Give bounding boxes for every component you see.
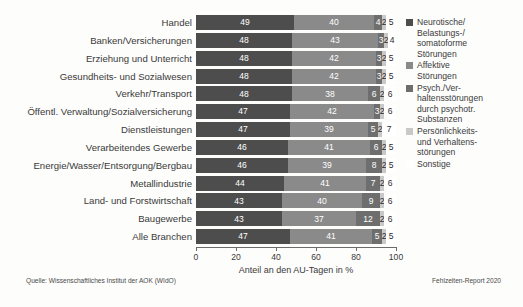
legend-item: Affektive Störungen bbox=[406, 60, 521, 81]
bar-segment: 48 bbox=[196, 33, 292, 48]
bar-segment: 46 bbox=[196, 158, 288, 173]
x-tick-label: 60 bbox=[311, 252, 321, 262]
bar-segment: 40 bbox=[282, 193, 362, 208]
bar-segment: 12 bbox=[356, 211, 380, 226]
bar-segment: 5 bbox=[386, 140, 396, 155]
bar-segment: 48 bbox=[196, 69, 292, 84]
bar-segment: 47 bbox=[196, 229, 290, 244]
legend-swatch-icon bbox=[406, 62, 413, 69]
bar-segment: 44 bbox=[196, 176, 284, 191]
bar-segment: 37 bbox=[282, 211, 356, 226]
x-tick-label: 100 bbox=[389, 252, 403, 262]
bar-segment: 6 bbox=[384, 211, 396, 226]
bar-segment: 5 bbox=[372, 229, 382, 244]
bar-segment: 4 bbox=[388, 33, 396, 48]
legend-swatch-icon bbox=[406, 161, 413, 168]
category-axis-labels: HandelBanken/VersicherungenErziehung und… bbox=[0, 15, 192, 247]
bar-row: 4742326 bbox=[196, 104, 396, 119]
bar-row: 4639825 bbox=[196, 158, 396, 173]
bar-segment: 41 bbox=[290, 229, 372, 244]
bar-segment: 42 bbox=[292, 51, 376, 66]
stacked-bar-plot-area: 4940425484332448423254842325483862647423… bbox=[196, 15, 396, 247]
legend-item: Persönlichkeits- und Verhaltens- störung… bbox=[406, 126, 521, 158]
bar-row: 4741525 bbox=[196, 229, 396, 244]
bar-segment: 6 bbox=[370, 140, 382, 155]
bar-row: 4838626 bbox=[196, 86, 396, 101]
legend-label: Neurotische/ Belastungs-/ somatoforme St… bbox=[417, 17, 467, 59]
category-label: Handel bbox=[2, 15, 192, 30]
x-axis-line bbox=[196, 247, 396, 248]
bar-segment: 46 bbox=[196, 140, 288, 155]
bar-segment: 7 bbox=[366, 176, 380, 191]
category-label: Metallindustrie bbox=[2, 176, 192, 191]
bar-segment: 5 bbox=[386, 69, 396, 84]
category-label: Energie/Wasser/Entsorgung/Bergbau bbox=[2, 158, 192, 173]
bar-segment: 8 bbox=[366, 158, 382, 173]
bar-segment: 40 bbox=[294, 15, 374, 30]
bar-segment: 6 bbox=[384, 104, 396, 119]
bar-segment: 43 bbox=[292, 33, 378, 48]
bar-segment: 6 bbox=[384, 176, 396, 191]
x-tick-label: 0 bbox=[194, 252, 199, 262]
bar-row: 43371226 bbox=[196, 211, 396, 226]
bar-row: 4842325 bbox=[196, 69, 396, 84]
x-tick-mark bbox=[276, 247, 277, 251]
bar-segment: 5 bbox=[386, 229, 396, 244]
category-label: Banken/Versicherungen bbox=[2, 33, 192, 48]
bar-segment: 5 bbox=[368, 122, 378, 137]
bar-segment: 43 bbox=[196, 211, 282, 226]
category-label: Dienstleistungen bbox=[2, 122, 192, 137]
legend-item: Neurotische/ Belastungs-/ somatoforme St… bbox=[406, 17, 521, 59]
bar-segment: 41 bbox=[284, 176, 366, 191]
x-tick-mark bbox=[316, 247, 317, 251]
legend-label: Sonstige bbox=[417, 159, 450, 170]
bar-segment: 47 bbox=[196, 104, 290, 119]
source-note: Quelle: Wissenschaftliches Institut der … bbox=[26, 277, 176, 284]
bar-segment: 47 bbox=[196, 122, 290, 137]
bar-segment: 5 bbox=[386, 158, 396, 173]
bar-row: 4441726 bbox=[196, 176, 396, 191]
bar-segment: 48 bbox=[196, 51, 292, 66]
bar-segment: 43 bbox=[196, 193, 282, 208]
bar-segment: 49 bbox=[196, 15, 294, 30]
legend-swatch-icon bbox=[406, 85, 413, 92]
bar-segment: 6 bbox=[368, 86, 380, 101]
bar-segment: 48 bbox=[196, 86, 292, 101]
category-label: Gesundheits- und Sozialwesen bbox=[2, 69, 192, 84]
bar-segment: 42 bbox=[290, 104, 374, 119]
bar-segment: 39 bbox=[290, 122, 368, 137]
x-tick-mark bbox=[236, 247, 237, 251]
legend-label: Persönlichkeits- und Verhaltens- störung… bbox=[417, 126, 478, 158]
bar-segment: 6 bbox=[384, 193, 396, 208]
chart-figure: HandelBanken/VersicherungenErziehung und… bbox=[0, 0, 523, 307]
chart-legend: Neurotische/ Belastungs-/ somatoforme St… bbox=[406, 17, 521, 170]
bar-segment: 41 bbox=[288, 140, 370, 155]
legend-swatch-icon bbox=[406, 19, 413, 26]
bar-row: 4940425 bbox=[196, 15, 396, 30]
legend-label: Affektive Störungen bbox=[417, 60, 457, 81]
category-label: Land- und Forstwirtschaft bbox=[2, 193, 192, 208]
x-tick-label: 20 bbox=[231, 252, 241, 262]
category-label: Verkehr/Transport bbox=[2, 86, 192, 101]
bar-segment: 7 bbox=[382, 122, 396, 137]
x-tick-mark bbox=[396, 247, 397, 251]
bar-segment: 42 bbox=[292, 69, 376, 84]
x-tick-label: 40 bbox=[271, 252, 281, 262]
category-label: Alle Branchen bbox=[2, 229, 192, 244]
legend-swatch-icon bbox=[406, 128, 413, 135]
bar-row: 4739527 bbox=[196, 122, 396, 137]
category-label: Baugewerbe bbox=[2, 211, 192, 226]
bar-segment: 6 bbox=[384, 86, 396, 101]
bar-row: 4641625 bbox=[196, 140, 396, 155]
x-tick-label: 80 bbox=[351, 252, 361, 262]
x-tick-mark bbox=[356, 247, 357, 251]
report-note: Fehlzeiten-Report 2020 bbox=[432, 277, 501, 284]
category-label: Erziehung und Unterricht bbox=[2, 51, 192, 66]
category-label: Öffentl. Verwaltung/Sozialversicherung bbox=[2, 104, 192, 119]
bar-segment: 38 bbox=[292, 86, 368, 101]
bar-row: 4340926 bbox=[196, 193, 396, 208]
bar-segment: 5 bbox=[386, 51, 396, 66]
legend-label: Psych./Ver- haltensstörungen durch psych… bbox=[417, 83, 483, 125]
category-label: Verarbeitendes Gewerbe bbox=[2, 140, 192, 155]
legend-item: Sonstige bbox=[406, 159, 521, 170]
